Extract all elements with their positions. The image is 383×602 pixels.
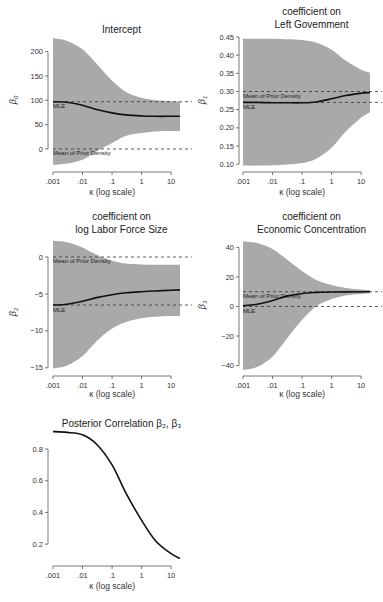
y-tick-label: 0.45 bbox=[219, 33, 234, 42]
x-tick-label: .1 bbox=[299, 177, 305, 186]
y-tick-label: −15 bbox=[30, 363, 43, 372]
y-tick-label: 200 bbox=[30, 47, 43, 56]
chart-panel-posterior-correlation: 0.20.40.60.8.001.01.1110κ (log scale)Pos… bbox=[33, 418, 182, 591]
x-axis-label: κ (log scale) bbox=[89, 187, 135, 197]
y-tick-label: 0.25 bbox=[219, 105, 234, 114]
x-tick-label: 10 bbox=[167, 571, 175, 580]
x-axis-label: κ (log scale) bbox=[89, 581, 135, 591]
y-tick-label: 20 bbox=[226, 273, 234, 282]
x-tick-label: .001 bbox=[46, 571, 61, 580]
y-tick-label: 0.6 bbox=[33, 476, 43, 485]
y-tick-label: 100 bbox=[30, 96, 43, 105]
y-tick-label: 0.30 bbox=[219, 87, 234, 96]
y-tick-label: 0.40 bbox=[219, 51, 234, 60]
y-axis-label: β3 bbox=[197, 300, 208, 310]
chart-title: Posterior Correlation β₂, β₃ bbox=[62, 418, 182, 429]
y-tick-label: 0.15 bbox=[219, 142, 234, 151]
y-tick-label: 0.4 bbox=[33, 508, 43, 517]
y-tick-label: 0.10 bbox=[219, 160, 234, 169]
y-axis-label: β0 bbox=[8, 95, 19, 105]
prior-mean-label: Mean of Prior Density bbox=[243, 93, 301, 99]
y-tick-label: 50 bbox=[35, 120, 43, 129]
x-tick-label: .001 bbox=[46, 177, 61, 186]
prior-mean-label: Mean of Prior Density bbox=[53, 258, 111, 264]
x-tick-label: 10 bbox=[357, 381, 365, 390]
chart-title: coefficient on bbox=[92, 211, 151, 222]
y-axis-label: β1 bbox=[197, 96, 208, 106]
y-tick-label: 0.35 bbox=[219, 69, 234, 78]
figure-canvas: MLEMean of Prior Density050100150200β0.0… bbox=[0, 0, 383, 602]
chart-title: coefficient on bbox=[282, 6, 341, 17]
x-tick-label: 1 bbox=[329, 177, 333, 186]
x-tick-label: 1 bbox=[139, 571, 143, 580]
y-tick-label: −20 bbox=[221, 332, 234, 341]
x-axis-label: κ (log scale) bbox=[279, 187, 325, 197]
x-tick-label: 1 bbox=[139, 177, 143, 186]
y-tick-label: −5 bbox=[34, 290, 43, 299]
chart-title: coefficient on bbox=[282, 211, 341, 222]
x-tick-label: .01 bbox=[267, 381, 277, 390]
x-tick-label: 10 bbox=[167, 177, 175, 186]
x-tick-label: .01 bbox=[267, 177, 277, 186]
y-tick-label: 0.20 bbox=[219, 123, 234, 132]
y-tick-label: 0.8 bbox=[33, 445, 43, 454]
chart-panel-left-government: Mean of Prior DensityMLE0.100.150.200.25… bbox=[197, 6, 382, 197]
mle-label: MLE bbox=[53, 103, 65, 109]
x-tick-label: .01 bbox=[77, 177, 87, 186]
prior-mean-label: Mean of Prior Density bbox=[243, 293, 301, 299]
x-axis-label: κ (log scale) bbox=[279, 389, 325, 399]
chart-panel-intercept: MLEMean of Prior Density050100150200β0.0… bbox=[8, 24, 192, 197]
x-tick-label: .001 bbox=[46, 381, 61, 390]
y-tick-label: 0 bbox=[39, 145, 43, 154]
y-tick-label: 0 bbox=[230, 302, 234, 311]
y-tick-label: −10 bbox=[30, 326, 43, 335]
chart-title: Intercept bbox=[102, 24, 141, 35]
chart-title: log Labor Force Size bbox=[75, 224, 168, 235]
chart-panel-economic-concentration: Mean of Prior DensityMLE−40−2002040β3.00… bbox=[197, 211, 382, 399]
x-tick-label: 10 bbox=[357, 177, 365, 186]
prior-mean-label: Mean of Prior Density bbox=[53, 150, 111, 156]
x-tick-label: .1 bbox=[109, 177, 115, 186]
y-axis-label: β2 bbox=[8, 307, 19, 317]
x-axis-label: κ (log scale) bbox=[89, 389, 135, 399]
x-tick-label: .001 bbox=[236, 381, 251, 390]
x-tick-label: 10 bbox=[167, 381, 175, 390]
chart-panel-labor-force: Mean of Prior DensityMLE−15−10−50β2.001.… bbox=[8, 211, 192, 399]
x-tick-label: .1 bbox=[109, 571, 115, 580]
mle-label: MLE bbox=[243, 308, 255, 314]
x-tick-label: 1 bbox=[329, 381, 333, 390]
mle-label: MLE bbox=[53, 307, 65, 313]
credible-band bbox=[243, 242, 370, 371]
x-tick-label: .001 bbox=[236, 177, 251, 186]
x-tick-label: .01 bbox=[77, 571, 87, 580]
y-tick-label: 150 bbox=[30, 72, 43, 81]
y-tick-label: 0.2 bbox=[33, 540, 43, 549]
mle-label: MLE bbox=[243, 104, 255, 110]
x-tick-label: .01 bbox=[77, 381, 87, 390]
chart-title: Economic Concentration bbox=[257, 224, 366, 235]
y-tick-label: 0 bbox=[39, 253, 43, 262]
chart-title: Left Govemment bbox=[275, 19, 349, 30]
correlation-line bbox=[53, 432, 180, 559]
x-tick-label: 1 bbox=[139, 381, 143, 390]
y-tick-label: −40 bbox=[221, 361, 234, 370]
y-tick-label: 40 bbox=[226, 243, 234, 252]
